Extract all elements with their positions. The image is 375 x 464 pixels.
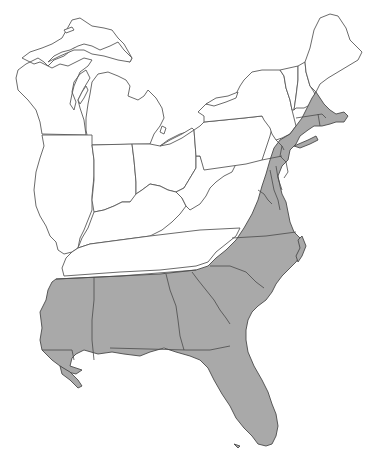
state-maine: [305, 14, 362, 92]
lake-st-clair: [160, 126, 166, 134]
eastern-us-map: [0, 0, 375, 464]
state-pennsylvania: [194, 116, 272, 170]
unshaded-states: [16, 14, 362, 276]
florida-keys: [234, 444, 240, 448]
state-michigan: [86, 72, 164, 145]
